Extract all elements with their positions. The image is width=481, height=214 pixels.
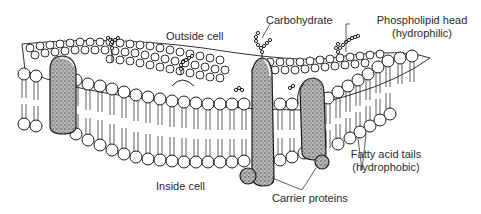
fatty-acid-line2: (hydrophobic) <box>344 161 428 174</box>
carrier-protein-short <box>298 78 329 169</box>
fatty-acid-tails-label: Fatty acid tails (hydrophobic) <box>344 148 428 174</box>
carbohydrate-label: Carbohydrate <box>266 14 333 27</box>
carrier-proteins-leader <box>272 168 316 190</box>
fatty-acid-line1: Fatty acid tails <box>344 148 428 161</box>
cell-membrane-diagram: Outside cell Carbohydrate Phospholipid h… <box>0 0 481 214</box>
integral-protein-left <box>50 56 76 134</box>
phospholipid-head-line1: Phospholipid head <box>366 14 478 27</box>
outside-cell-label: Outside cell <box>166 30 223 43</box>
carbohydrate-chain-4 <box>334 34 359 53</box>
inside-cell-label: Inside cell <box>156 180 205 193</box>
phospholipid-head-line2: (hydrophilic) <box>366 27 478 40</box>
carrier-proteins-label: Carrier proteins <box>272 192 348 205</box>
phospholipid-head-label: Phospholipid head (hydrophilic) <box>366 14 478 40</box>
